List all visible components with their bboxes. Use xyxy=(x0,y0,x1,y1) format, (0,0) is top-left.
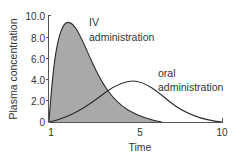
y-tick-2: 2.0 xyxy=(31,96,45,107)
x-axis-title: Time xyxy=(129,141,152,153)
y-tick-8: 8.0 xyxy=(31,33,45,44)
x-tick-5: 5 xyxy=(137,127,143,138)
y-axis-title: Plasma concentration xyxy=(7,18,19,119)
plasma-concentration-chart: Plasma concentration 10.0 8.0 6.0 4.0 2.… xyxy=(0,0,241,154)
y-tick-10: 10.0 xyxy=(26,11,46,22)
y-tick-6: 6.0 xyxy=(31,54,45,65)
x-tick-10: 10 xyxy=(216,127,228,138)
y-tick-4: 4.0 xyxy=(31,75,45,86)
iv-annotation-line1: IV xyxy=(89,16,99,28)
oral-annotation-line1: oral xyxy=(158,67,176,79)
y-tick-0: 0 xyxy=(39,117,45,128)
iv-annotation-line2: administration xyxy=(89,31,155,43)
x-tick-1: 1 xyxy=(48,127,54,138)
oral-annotation-line2: administration xyxy=(158,81,224,93)
